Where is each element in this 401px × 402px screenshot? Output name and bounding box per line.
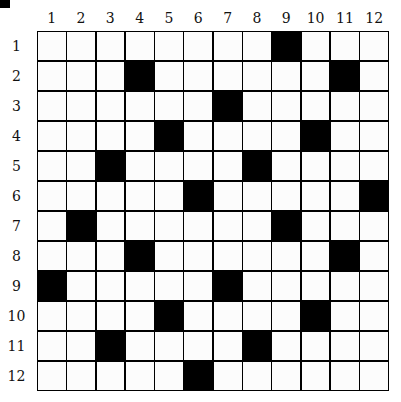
grid-cell[interactable] bbox=[360, 32, 388, 60]
grid-cell[interactable] bbox=[214, 152, 242, 180]
grid-cell[interactable] bbox=[272, 302, 300, 330]
grid-cell[interactable] bbox=[38, 242, 66, 270]
grid-cell[interactable] bbox=[243, 242, 271, 270]
grid-cell[interactable] bbox=[67, 32, 95, 60]
grid-cell[interactable] bbox=[38, 152, 66, 180]
grid-cell[interactable] bbox=[243, 272, 271, 300]
grid-cell[interactable] bbox=[67, 122, 95, 150]
grid-cell[interactable] bbox=[38, 32, 66, 60]
grid-cell[interactable] bbox=[214, 362, 242, 390]
grid-cell[interactable] bbox=[243, 62, 271, 90]
grid-cell[interactable] bbox=[302, 62, 330, 90]
grid-cell[interactable] bbox=[155, 272, 183, 300]
grid-cell[interactable] bbox=[243, 302, 271, 330]
grid-cell[interactable] bbox=[184, 272, 212, 300]
grid-cell[interactable] bbox=[272, 122, 300, 150]
grid-cell[interactable] bbox=[243, 212, 271, 240]
grid-cell[interactable] bbox=[360, 272, 388, 300]
grid-cell[interactable] bbox=[184, 32, 212, 60]
grid-cell[interactable] bbox=[67, 152, 95, 180]
grid-cell[interactable] bbox=[67, 242, 95, 270]
grid-cell[interactable] bbox=[302, 332, 330, 360]
grid-cell[interactable] bbox=[331, 152, 359, 180]
grid-cell[interactable] bbox=[272, 182, 300, 210]
grid-cell[interactable] bbox=[126, 332, 154, 360]
grid-cell[interactable] bbox=[97, 32, 125, 60]
grid-cell[interactable] bbox=[126, 212, 154, 240]
grid-cell[interactable] bbox=[38, 332, 66, 360]
grid-cell[interactable] bbox=[184, 152, 212, 180]
grid-cell[interactable] bbox=[38, 362, 66, 390]
grid-cell[interactable] bbox=[38, 122, 66, 150]
grid-cell[interactable] bbox=[38, 182, 66, 210]
grid-cell[interactable] bbox=[155, 152, 183, 180]
grid-cell[interactable] bbox=[184, 212, 212, 240]
grid-cell[interactable] bbox=[272, 272, 300, 300]
grid-cell[interactable] bbox=[302, 32, 330, 60]
grid-cell[interactable] bbox=[331, 32, 359, 60]
grid-cell[interactable] bbox=[184, 92, 212, 120]
grid-cell[interactable] bbox=[38, 302, 66, 330]
grid-cell[interactable] bbox=[331, 302, 359, 330]
grid-cell[interactable] bbox=[360, 62, 388, 90]
grid-cell[interactable] bbox=[126, 122, 154, 150]
grid-cell[interactable] bbox=[360, 122, 388, 150]
grid-cell[interactable] bbox=[97, 62, 125, 90]
grid-cell[interactable] bbox=[126, 152, 154, 180]
grid-cell[interactable] bbox=[184, 62, 212, 90]
grid-cell[interactable] bbox=[272, 332, 300, 360]
grid-cell[interactable] bbox=[67, 92, 95, 120]
grid-cell[interactable] bbox=[67, 182, 95, 210]
grid-cell[interactable] bbox=[214, 302, 242, 330]
grid-cell[interactable] bbox=[272, 92, 300, 120]
grid-cell[interactable] bbox=[155, 332, 183, 360]
grid-cell[interactable] bbox=[155, 62, 183, 90]
grid-cell[interactable] bbox=[214, 62, 242, 90]
grid-cell[interactable] bbox=[184, 332, 212, 360]
grid-cell[interactable] bbox=[214, 122, 242, 150]
grid-cell[interactable] bbox=[360, 152, 388, 180]
grid-cell[interactable] bbox=[360, 332, 388, 360]
grid-cell[interactable] bbox=[331, 122, 359, 150]
grid-cell[interactable] bbox=[360, 212, 388, 240]
grid-cell[interactable] bbox=[67, 302, 95, 330]
grid-cell[interactable] bbox=[331, 92, 359, 120]
grid-cell[interactable] bbox=[97, 242, 125, 270]
grid-cell[interactable] bbox=[331, 362, 359, 390]
grid-cell[interactable] bbox=[302, 152, 330, 180]
grid-cell[interactable] bbox=[302, 272, 330, 300]
grid-cell[interactable] bbox=[155, 182, 183, 210]
grid-cell[interactable] bbox=[272, 242, 300, 270]
grid-cell[interactable] bbox=[38, 92, 66, 120]
grid-cell[interactable] bbox=[272, 62, 300, 90]
grid-cell[interactable] bbox=[97, 212, 125, 240]
grid-cell[interactable] bbox=[97, 182, 125, 210]
grid-cell[interactable] bbox=[126, 32, 154, 60]
grid-cell[interactable] bbox=[67, 332, 95, 360]
grid-cell[interactable] bbox=[302, 92, 330, 120]
grid-cell[interactable] bbox=[155, 212, 183, 240]
grid-cell[interactable] bbox=[97, 302, 125, 330]
grid-cell[interactable] bbox=[360, 92, 388, 120]
grid-cell[interactable] bbox=[97, 362, 125, 390]
grid-cell[interactable] bbox=[214, 332, 242, 360]
grid-cell[interactable] bbox=[126, 302, 154, 330]
grid-cell[interactable] bbox=[214, 212, 242, 240]
grid-cell[interactable] bbox=[67, 362, 95, 390]
grid-cell[interactable] bbox=[243, 92, 271, 120]
grid-cell[interactable] bbox=[302, 212, 330, 240]
grid-cell[interactable] bbox=[331, 212, 359, 240]
grid-cell[interactable] bbox=[38, 212, 66, 240]
grid-cell[interactable] bbox=[214, 32, 242, 60]
grid-cell[interactable] bbox=[302, 362, 330, 390]
grid-cell[interactable] bbox=[214, 242, 242, 270]
grid-cell[interactable] bbox=[331, 182, 359, 210]
grid-cell[interactable] bbox=[331, 332, 359, 360]
grid-cell[interactable] bbox=[184, 242, 212, 270]
grid-cell[interactable] bbox=[126, 182, 154, 210]
grid-cell[interactable] bbox=[67, 272, 95, 300]
grid-cell[interactable] bbox=[243, 122, 271, 150]
grid-cell[interactable] bbox=[331, 272, 359, 300]
grid-cell[interactable] bbox=[272, 362, 300, 390]
grid-cell[interactable] bbox=[155, 362, 183, 390]
